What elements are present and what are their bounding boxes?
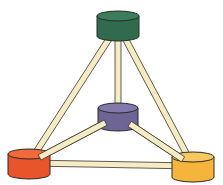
tetrahedron-diagram: [0, 0, 223, 185]
rod-top-left: [26, 23, 120, 164]
nodes-layer: [8, 11, 214, 182]
rod-center-left-front: [38, 120, 107, 160]
node-top-cylinder: [97, 11, 139, 41]
rod-top-right: [115, 24, 195, 168]
rod-left-right: [29, 160, 193, 169]
